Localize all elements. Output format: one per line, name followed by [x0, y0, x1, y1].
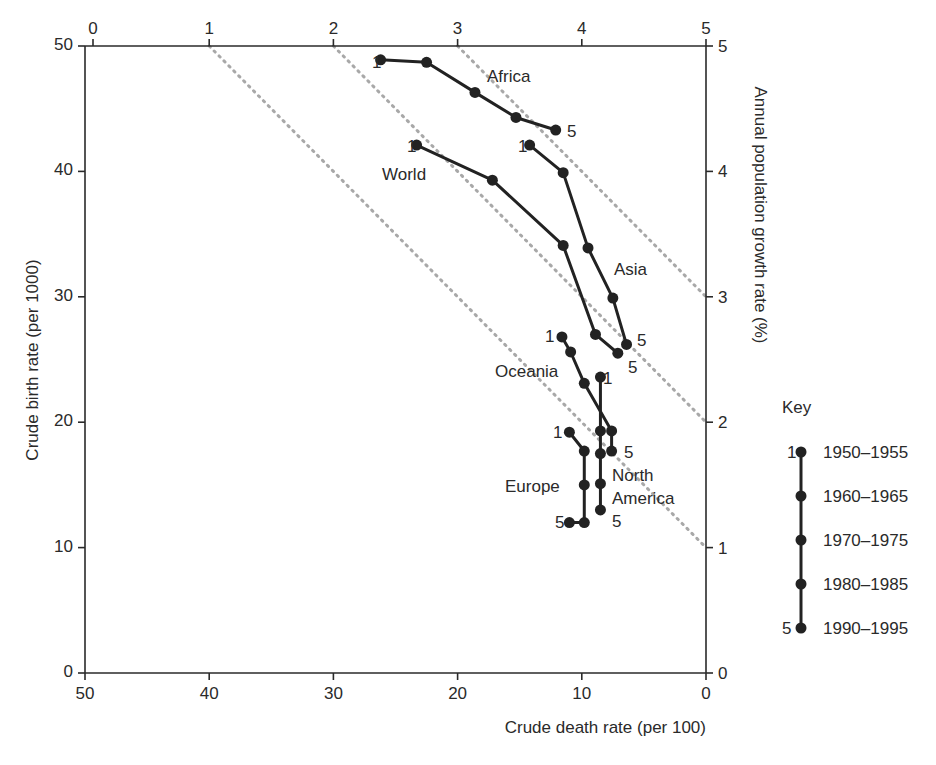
axis-ticks: 5040302010001020304050012345012345 [54, 19, 727, 703]
label-world: World [382, 165, 426, 184]
y-axis-title: Crude birth rate (per 1000) [23, 259, 42, 460]
x-axis-title: Crude death rate (per 100) [505, 718, 706, 737]
x-tick-label: 50 [76, 684, 95, 703]
label-asia: Asia [614, 260, 648, 279]
top-tick-label: 0 [88, 19, 97, 38]
y2-axis-title: Annual population growth rate (%) [751, 86, 770, 343]
top-tick-label: 3 [453, 19, 462, 38]
legend-item: 1960–1965 [823, 487, 908, 506]
x-tick-label: 10 [572, 684, 591, 703]
period-marker: 1 [372, 53, 381, 72]
right-tick-label: 4 [718, 162, 727, 181]
series-asia [524, 140, 632, 350]
y-tick-label: 50 [54, 35, 73, 54]
right-tick-label: 5 [718, 37, 727, 56]
right-tick-label: 0 [718, 664, 727, 683]
period-marker: 5 [628, 358, 637, 377]
right-tick-label: 1 [718, 539, 727, 558]
legend-start-marker: 1 [787, 443, 796, 462]
period-marker: 1 [545, 327, 554, 346]
legend: Key1950–19551960–19651970–19751980–19851… [782, 398, 908, 638]
period-marker: 1 [553, 423, 562, 442]
x-tick-label: 40 [200, 684, 219, 703]
legend-item: 1970–1975 [823, 531, 908, 550]
label-africa: Africa [487, 67, 531, 86]
label-north-america-2: America [612, 489, 675, 508]
legend-item: 1990–1995 [823, 619, 908, 638]
legend-item: 1950–1955 [823, 443, 908, 462]
period-marker: 1 [407, 137, 416, 156]
series-africa [375, 54, 561, 135]
period-marker: 1 [603, 369, 612, 388]
period-marker: 5 [637, 331, 646, 350]
period-marker: 5 [567, 122, 576, 141]
top-tick-label: 1 [204, 19, 213, 38]
series-oceania [556, 331, 617, 456]
period-marker: 1 [518, 137, 527, 156]
y-tick-label: 10 [54, 537, 73, 556]
y-tick-label: 30 [54, 286, 73, 305]
period-marker: 5 [555, 513, 564, 532]
series-europe [564, 427, 590, 528]
legend-item: 1980–1985 [823, 575, 908, 594]
right-tick-label: 2 [718, 413, 727, 432]
x-tick-label: 0 [701, 684, 710, 703]
y-tick-label: 20 [54, 411, 73, 430]
x-tick-label: 30 [324, 684, 343, 703]
top-tick-label: 5 [701, 19, 710, 38]
right-tick-label: 3 [718, 288, 727, 307]
period-marker: 5 [624, 443, 633, 462]
population-chart: 5040302010001020304050012345012345 Afric… [0, 0, 936, 765]
label-europe: Europe [505, 477, 560, 496]
top-tick-label: 4 [577, 19, 586, 38]
series-labels: AfricaWorldAsiaOceaniaEuropeNorthAmerica… [372, 53, 675, 532]
y-tick-label: 40 [54, 160, 73, 179]
period-marker: 5 [612, 512, 621, 531]
y-tick-label: 0 [64, 662, 73, 681]
label-north-america: North [612, 466, 654, 485]
axes [85, 46, 706, 673]
top-tick-label: 2 [329, 19, 338, 38]
x-tick-label: 20 [448, 684, 467, 703]
legend-title: Key [782, 398, 812, 417]
legend-end-marker: 5 [782, 619, 791, 638]
label-oceania: Oceania [495, 362, 559, 381]
